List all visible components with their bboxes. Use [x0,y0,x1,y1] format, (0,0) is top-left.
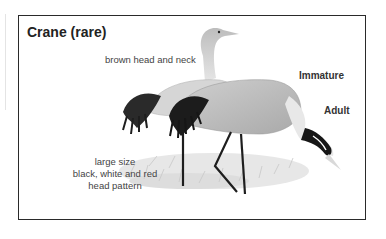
illustration-frame: Crane (rare) brown head and neck Immatur… [18,15,366,220]
adult-annotation: large size black, white and red head pat… [65,156,165,192]
figure-title: Crane (rare) [27,24,106,40]
immature-annotation: brown head and neck [105,54,196,66]
adult-annotation-line: head pattern [65,180,165,192]
adult-label: Adult [324,105,350,116]
adult-annotation-line: large size [65,156,165,168]
page-margin-line [5,14,6,110]
adult-annotation-line: black, white and red [65,168,165,180]
immature-label: Immature [299,70,344,81]
